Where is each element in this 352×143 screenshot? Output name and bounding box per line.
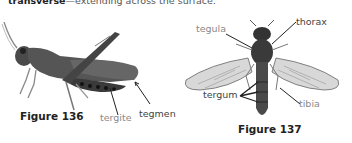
figure-136-caption: Figure 136 (20, 110, 84, 122)
label-tegmen: tegmen (139, 108, 176, 119)
figure-137-caption: Figure 137 (238, 123, 302, 135)
label-tibia: tibia (299, 98, 320, 109)
label-tergum: tergum (203, 89, 238, 100)
label-tegula: tegula (196, 23, 226, 34)
label-tergite: tergite (100, 112, 132, 123)
label-thorax: thorax (296, 16, 327, 27)
grasshopper-illustration (2, 22, 150, 115)
